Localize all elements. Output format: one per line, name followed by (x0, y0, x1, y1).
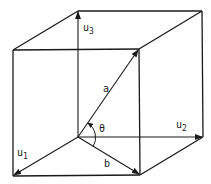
edge-bottom-right (140, 137, 203, 175)
edge-top-right (139, 11, 202, 49)
edge-front-top (13, 49, 139, 50)
label-u2: u2 (176, 119, 187, 133)
label-b: b (104, 158, 110, 169)
label-theta: θ (99, 123, 105, 134)
edge-top-left (13, 11, 78, 50)
cube-diagram: u3 u2 u1 a b θ (0, 0, 211, 184)
edge-front-bottom (13, 175, 140, 176)
label-a: a (103, 83, 109, 94)
labels: u3 u2 u1 a b θ (17, 22, 187, 169)
label-u3: u3 (83, 22, 94, 36)
edge-front-right (139, 49, 140, 175)
label-u1: u1 (17, 147, 28, 161)
edge-back-right (202, 11, 203, 137)
